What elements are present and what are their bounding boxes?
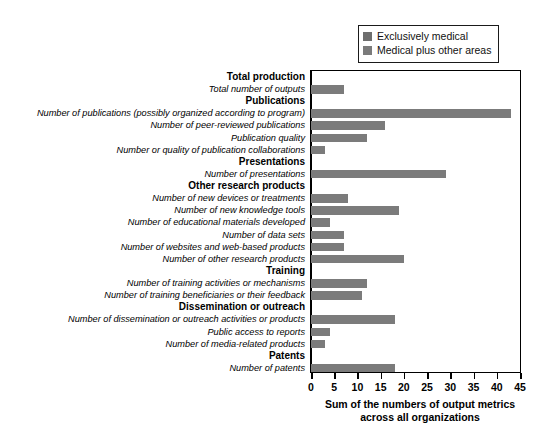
legend-item-medical-plus-other-areas: Medical plus other areas: [363, 44, 491, 57]
x-axis-tick: [334, 373, 336, 379]
x-axis-tick: [520, 373, 522, 379]
bar: [311, 315, 395, 324]
x-axis-tick: [311, 373, 313, 379]
bar: [311, 121, 385, 130]
bar: [311, 243, 344, 252]
x-axis-tick-label: 40: [491, 381, 503, 393]
legend-label-exclusively-medical: Exclusively medical: [377, 31, 468, 42]
chart-legend: Exclusively medical Medical plus other a…: [358, 25, 499, 63]
bar: [311, 134, 367, 143]
x-axis-tick: [497, 373, 499, 379]
x-axis-tick-label: 20: [398, 381, 410, 393]
x-axis-title-line2: across all organizations: [300, 411, 540, 424]
bar-row-label: Number of patents: [229, 361, 305, 376]
x-axis-tick: [357, 373, 359, 379]
x-axis-tick-label: 5: [331, 381, 337, 393]
x-axis-title-line1: Sum of the numbers of output metrics: [300, 398, 540, 411]
bar: [311, 194, 348, 203]
bar: [311, 218, 330, 227]
x-axis-tick-label: 45: [514, 381, 526, 393]
x-axis-tick-label: 30: [444, 381, 456, 393]
bar: [311, 340, 325, 349]
bar: [311, 255, 404, 264]
x-axis-tick: [404, 373, 406, 379]
x-axis-tick: [474, 373, 476, 379]
legend-label-medical-plus-other-areas: Medical plus other areas: [377, 45, 491, 56]
bar: [311, 85, 344, 94]
x-axis-tick: [450, 373, 452, 379]
x-axis-tick: [427, 373, 429, 379]
bar: [311, 146, 325, 155]
legend-swatch-medical-plus-other-areas: [363, 46, 372, 55]
bar: [311, 109, 511, 118]
x-axis-tick-label: 10: [352, 381, 364, 393]
legend-swatch-exclusively-medical: [363, 32, 372, 41]
x-axis-tick-label: 25: [421, 381, 433, 393]
x-axis-tick: [381, 373, 383, 379]
x-axis: 051015202530354045: [310, 373, 521, 374]
x-axis-tick-label: 35: [468, 381, 480, 393]
bar-chart: Exclusively medical Medical plus other a…: [0, 0, 551, 441]
bar: [311, 328, 330, 337]
bar: [311, 364, 395, 373]
x-axis-tick-label: 15: [375, 381, 387, 393]
bar: [311, 170, 446, 179]
bar: [311, 231, 344, 240]
chart-rows: Total productionTotal number of outputsP…: [0, 70, 551, 373]
x-axis-tick-label: 0: [308, 381, 314, 393]
bar: [311, 279, 367, 288]
x-axis-title: Sum of the numbers of output metrics acr…: [300, 398, 540, 424]
bar: [311, 291, 362, 300]
legend-item-exclusively-medical: Exclusively medical: [363, 30, 491, 43]
bar: [311, 206, 399, 215]
